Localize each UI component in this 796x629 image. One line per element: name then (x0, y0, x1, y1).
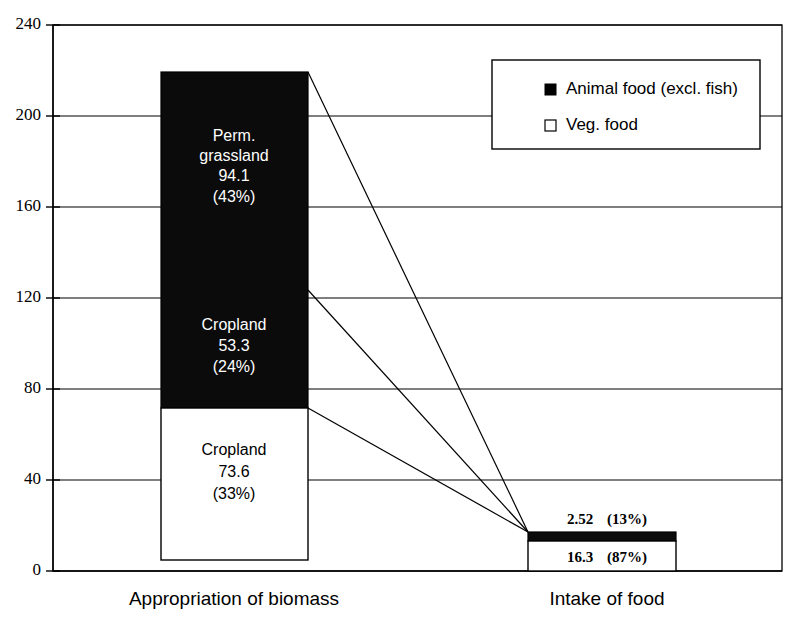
segment-label-perm-grassland-value: 94.1 (218, 167, 249, 184)
chart-container: 240 200 160 120 80 40 0 Perm. grassland … (0, 0, 796, 629)
segment-label-perm-grassland-name2: grassland (199, 147, 268, 164)
y-tick-label-0: 0 (33, 560, 42, 579)
legend-swatch-animal-food-icon (545, 84, 556, 95)
segment-label-cropland-animal-name: Cropland (202, 316, 267, 333)
y-tick-label-80: 80 (24, 378, 41, 397)
x-axis-label-appropriation: Appropriation of biomass (129, 588, 339, 609)
segment-label-perm-grassland-name: Perm. (213, 127, 256, 144)
y-tick-label-240: 240 (16, 14, 42, 33)
y-tick-label-40: 40 (24, 469, 41, 488)
veg-right-percent: (87%) (607, 549, 647, 566)
segment-label-animal-right-value: 2.52 (13%) (567, 511, 647, 528)
y-tick-label-120: 120 (16, 287, 42, 306)
legend-label-animal-food: Animal food (excl. fish) (566, 79, 738, 98)
animal-right-value: 2.52 (567, 511, 593, 527)
legend-background (492, 60, 760, 149)
bar-segment-veg-right[interactable] (528, 541, 676, 571)
connector-line-bottom (308, 408, 528, 532)
stacked-bar-chart: 240 200 160 120 80 40 0 Perm. grassland … (0, 0, 796, 629)
segment-label-cropland-veg-value: 73.6 (218, 463, 249, 480)
legend-label-veg-food: Veg. food (566, 115, 638, 134)
x-axis-label-intake: Intake of food (549, 588, 664, 609)
segment-label-perm-grassland-percent: (43%) (213, 188, 256, 205)
connector-line-middle (308, 290, 528, 532)
segment-label-cropland-veg-name: Cropland (202, 441, 267, 458)
y-tick-label-200: 200 (16, 105, 42, 124)
bar-segment-veg-left[interactable] (161, 408, 308, 560)
segment-label-cropland-veg-percent: (33%) (213, 485, 256, 502)
legend-swatch-veg-food-icon (545, 120, 556, 131)
segment-label-cropland-animal-percent: (24%) (213, 358, 256, 375)
segment-label-cropland-animal-value: 53.3 (218, 337, 249, 354)
y-tick-label-160: 160 (16, 196, 42, 215)
veg-right-value: 16.3 (567, 549, 593, 565)
segment-label-veg-right-value: 16.3 (87%) (567, 549, 647, 566)
legend: Animal food (excl. fish) Veg. food (492, 60, 760, 149)
animal-right-percent: (13%) (607, 511, 647, 528)
bar-segment-animal-right[interactable] (528, 532, 676, 541)
